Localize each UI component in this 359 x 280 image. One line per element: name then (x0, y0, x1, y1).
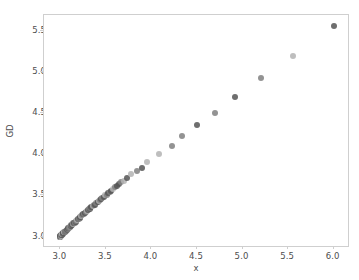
x-axis-tick-label: 5.0 (235, 251, 249, 261)
scatter-point (331, 23, 337, 29)
scatter-point (212, 110, 218, 116)
scatter-point (179, 133, 185, 139)
x-axis-label: x (43, 263, 349, 273)
y-axis-label-text: GD (5, 124, 15, 137)
x-axis-tick-mark (105, 246, 106, 249)
x-axis-tick-mark (196, 246, 197, 249)
scatter-point (139, 165, 145, 171)
x-axis-tick-label: 5.5 (280, 251, 294, 261)
x-axis-tick-label: 3.0 (52, 251, 66, 261)
x-axis-tick-mark (150, 246, 151, 249)
x-axis-label-text: x (193, 263, 198, 273)
scatter-point (194, 122, 200, 128)
scatter-point (169, 143, 175, 149)
x-axis-tick-label: 3.5 (98, 251, 112, 261)
x-axis-tick-mark (333, 246, 334, 249)
x-axis-tick-label: 4.5 (189, 251, 203, 261)
scatter-plot-figure: GD 3.03.54.04.55.05.5 3.03.54.04.55.05.5… (0, 0, 359, 280)
plot-area (43, 14, 349, 247)
scatter-point (232, 94, 238, 100)
scatter-points-layer (44, 15, 348, 246)
y-axis-label: GD (4, 14, 16, 247)
x-axis-tick-label: 6.0 (326, 251, 340, 261)
scatter-point (156, 151, 162, 157)
x-axis-tick-mark (287, 246, 288, 249)
scatter-point (258, 75, 264, 81)
x-axis-tick-mark (59, 246, 60, 249)
x-axis-tick-label: 4.0 (144, 251, 158, 261)
scatter-point (144, 159, 150, 165)
x-axis-tick-mark (242, 246, 243, 249)
scatter-point (290, 53, 296, 59)
